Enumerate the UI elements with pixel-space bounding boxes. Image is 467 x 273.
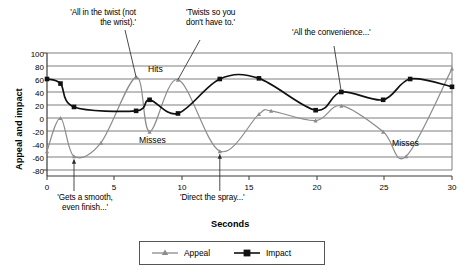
data-point-marker (450, 67, 454, 71)
data-point-marker (134, 109, 139, 114)
annotation-arrowhead (72, 159, 76, 164)
annotation-leader-line (125, 30, 136, 77)
x-axis-title: Seconds (211, 219, 249, 229)
axis-lines (43, 53, 452, 180)
legend-markers (140, 242, 324, 264)
data-point-marker (450, 85, 455, 90)
data-point-marker (58, 81, 63, 86)
data-point-marker (408, 77, 413, 82)
data-point-marker (72, 105, 77, 110)
annotation-twists-so-you: 'Twists so you don't have to.' (186, 8, 278, 28)
plot-label-misses-left: Misses (139, 135, 166, 145)
annotation-all-in-the-twist: 'All in the twist (not the wrist).' (26, 8, 136, 28)
series-impact (45, 74, 455, 115)
plot-canvas (0, 0, 467, 273)
data-point-marker (218, 77, 223, 82)
data-point-marker (45, 149, 49, 153)
legend[interactable]: Appeal Impact (139, 241, 325, 265)
plot-label-hits: Hits (148, 64, 163, 74)
annotation-leader-line (178, 40, 200, 80)
chart-figure: Appeal and impact 100 80 60 40 20 0 -20 … (0, 0, 467, 273)
annotation-all-the-convenience: 'All the convenience...' (292, 28, 412, 38)
legend-label-impact: Impact (266, 248, 291, 258)
plot-label-misses-right: Misses (392, 138, 419, 148)
annotation-arrowhead (218, 154, 222, 159)
data-point-marker (257, 76, 262, 81)
data-point-marker (45, 77, 50, 82)
data-point-marker (381, 98, 386, 103)
annotation-gets-a-smooth: 'Gets a smooth, even finish...' (33, 193, 137, 213)
data-point-marker (313, 108, 318, 113)
data-point-marker (147, 98, 152, 103)
annotation-direct-the-spray: 'Direct the spray...' (180, 193, 300, 203)
series-line (47, 74, 452, 113)
legend-label-appeal: Appeal (184, 248, 210, 258)
data-point-marker (176, 111, 181, 116)
